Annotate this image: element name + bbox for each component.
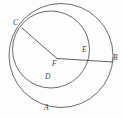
figure-canvas: [0, 0, 123, 118]
geometry-figure: C F E B D A: [0, 0, 123, 118]
point-label-a: A: [44, 104, 49, 112]
point-label-b: B: [113, 54, 118, 62]
point-label-c: C: [13, 19, 18, 27]
point-label-e: E: [82, 46, 87, 54]
segment-fb: [57, 59, 113, 63]
outer-circle: [9, 4, 113, 108]
segment-cf: [22, 28, 57, 59]
point-label-f: F: [52, 60, 57, 68]
point-label-d: D: [45, 73, 50, 81]
inner-circle: [13, 11, 90, 88]
